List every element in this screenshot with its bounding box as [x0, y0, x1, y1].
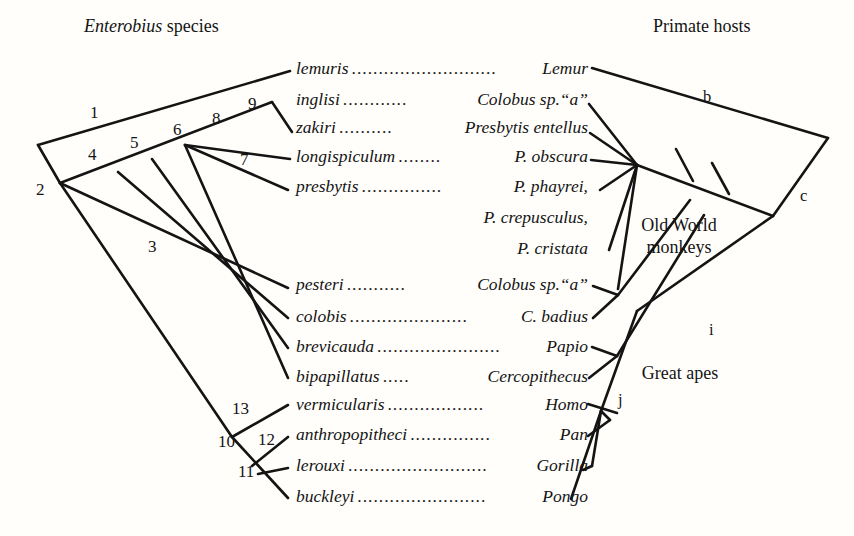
host-continuation: P. cristata	[296, 238, 588, 259]
host-name: Pongo	[542, 486, 588, 507]
species-name: pesteri	[296, 274, 344, 295]
species-name: lemuris	[296, 58, 349, 79]
dot-leader: ..................	[384, 394, 545, 415]
host-bracket-papio	[592, 347, 617, 356]
host-name: Papio	[546, 336, 588, 357]
species-row: lemuris ........................... Lemu…	[296, 58, 588, 82]
node-label-7: 7	[240, 150, 249, 170]
species-row: inglisi ............ Colobus sp.“a”	[296, 89, 588, 113]
node-label-9: 9	[248, 94, 257, 114]
species-row: bipapillatus ..... Cercopithecus	[296, 366, 588, 390]
species-row: longispiculum ........ P. obscura	[296, 146, 588, 170]
host-label-c: c	[800, 186, 807, 206]
host-label-i: i	[709, 320, 714, 340]
node-label-13: 13	[232, 399, 249, 419]
species-name: brevicauda	[296, 336, 374, 357]
dot-leader: ...............	[407, 424, 560, 445]
dot-leader: ............	[340, 89, 477, 110]
host-name: Cercopithecus	[488, 366, 588, 387]
node-label-2: 2	[36, 180, 45, 200]
host-name: Lemur	[542, 58, 588, 79]
host-group-old-world-monkeys: Old World monkeys	[624, 214, 734, 258]
dot-leader: ......................	[347, 306, 521, 327]
species-row: brevicauda ....................... Papio	[296, 336, 588, 360]
parasite-branch-9	[272, 102, 292, 132]
species-name: presbytis	[296, 176, 359, 197]
host-name: Presbytis entellus	[465, 117, 588, 138]
owm-line-2: monkeys	[624, 236, 734, 258]
species-row: presbytis ............... P. phayrei,	[296, 176, 588, 200]
dot-leader: .......................	[374, 336, 546, 357]
node-label-11: 11	[238, 462, 254, 482]
node-label-3: 3	[148, 237, 157, 257]
host-bracket-colobus-lower	[593, 295, 618, 318]
dot-leader: ........................	[354, 486, 542, 507]
dot-leader: ...........	[344, 274, 477, 295]
host-name: Colobus sp.“a”	[477, 89, 588, 110]
species-row: anthropopitheci ............... Pan	[296, 424, 588, 448]
host-name: Colobus sp.“a”	[477, 274, 588, 295]
node-label-6: 6	[173, 120, 182, 140]
host-label-b: b	[703, 87, 711, 107]
species-name: zakiri	[296, 117, 336, 138]
parasite-branch-6-desc	[185, 145, 288, 378]
host-owm-tip-presbytis	[600, 165, 637, 190]
species-name: inglisi	[296, 89, 340, 110]
host-name: P. obscura	[514, 146, 588, 167]
dot-leader: ..........................	[345, 455, 537, 476]
dot-leader: .....	[380, 366, 488, 387]
dot-leader: ...............	[359, 176, 514, 197]
species-row: vermicularis .................. Homo	[296, 394, 588, 418]
node-label-1: 1	[90, 103, 99, 123]
great-apes-line-1: Great apes	[620, 362, 740, 384]
species-name: lerouxi	[296, 455, 345, 476]
dot-leader: ..........	[336, 117, 465, 138]
species-name: vermicularis	[296, 394, 384, 415]
species-name: colobis	[296, 306, 347, 327]
host-name: P. phayrei,	[514, 176, 588, 197]
dot-leader: ...........................	[349, 58, 543, 79]
host-name: Homo	[545, 394, 588, 415]
parasite-branch-5-desc	[152, 159, 288, 348]
node-label-4: 4	[88, 145, 97, 165]
host-owm-tip-inglisi	[589, 104, 637, 165]
node-label-8: 8	[212, 109, 221, 129]
dot-leader: ........	[395, 146, 514, 167]
species-row: lerouxi .......................... Goril…	[296, 455, 588, 479]
species-row: buckleyi ........................ Pongo	[296, 486, 588, 510]
species-name: longispiculum	[296, 146, 395, 167]
species-name: bipapillatus	[296, 366, 380, 387]
parasite-branch-3	[60, 183, 232, 437]
node-label-10: 10	[218, 432, 235, 452]
host-group-great-apes: Great apes	[620, 362, 740, 384]
host-apes-inner-stem	[601, 411, 610, 420]
species-row: pesteri ........... Colobus sp.“a”	[296, 274, 588, 298]
species-name: anthropopitheci	[296, 424, 407, 445]
host-name: Pan	[560, 424, 588, 445]
host-label-j: j	[618, 390, 623, 410]
host-bracket-colobus-upper	[593, 286, 618, 295]
host-name: C. badius	[521, 306, 588, 327]
parasite-root-stem	[38, 145, 60, 183]
host-bracket-gorilla-stem	[592, 411, 601, 466]
species-row: colobis ...................... C. badius	[296, 306, 588, 330]
node-label-5: 5	[130, 133, 139, 153]
host-continuation: P. crepusculus,	[296, 207, 588, 228]
host-owm-tick-1	[676, 149, 693, 181]
host-name: Gorilla	[536, 455, 588, 476]
node-label-12: 12	[258, 430, 275, 450]
species-name: buckleyi	[296, 486, 354, 507]
owm-line-1: Old World	[624, 214, 734, 236]
species-row: zakiri .......... Presbytis entellus	[296, 117, 588, 141]
host-owm-tick-2	[712, 163, 729, 194]
parasite-branch-4-desc	[118, 172, 288, 318]
host-owm-stem	[637, 165, 773, 216]
phylogeny-figure: Enterobius species Primate hosts	[0, 0, 854, 536]
